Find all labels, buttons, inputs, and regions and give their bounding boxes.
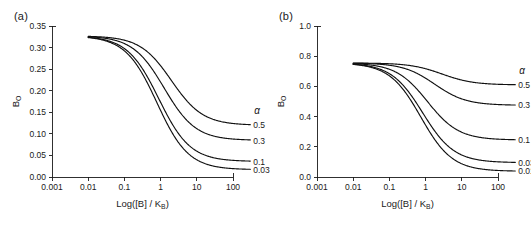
panel-b-x-axis-title: Log([B] / KB) — [381, 198, 434, 210]
panel-a-y-ticklabels: 0.000.050.100.150.200.250.300.35 — [29, 21, 46, 182]
x-tick-label: 100 — [226, 182, 240, 192]
panel-b-curves — [353, 63, 515, 171]
y-tick-label: 0.8 — [299, 51, 311, 61]
y-tick-label: 0.00 — [29, 172, 46, 182]
x-tick-label: 100 — [491, 182, 505, 192]
panel-a-y-axis-title: BO — [10, 96, 22, 108]
curve-alpha-0.3 — [88, 37, 250, 140]
y-tick-label: 0.0 — [299, 172, 311, 182]
curve-label-alpha-0.1: 0.1 — [518, 135, 530, 145]
x-tick-label: 0.001 — [41, 182, 63, 192]
curve-alpha-0.1 — [88, 37, 250, 161]
y-tick-label: 0.05 — [29, 150, 46, 160]
y-tick-label: 0.25 — [29, 64, 46, 74]
panel-b: (b) 0.00.20.40.60.81.0 0.0010.010.111010… — [265, 0, 531, 225]
y-tick-label: 0.6 — [299, 81, 311, 91]
curve-label-alpha-0.3: 0.3 — [253, 136, 265, 146]
x-tick-label: 1 — [423, 182, 428, 192]
y-tick-label: 0.20 — [29, 86, 46, 96]
x-axis-title-suffix: ) — [431, 198, 434, 209]
panel-a-curves — [88, 36, 250, 169]
panel-b-curve-labels: 0.50.30.10.030.01 — [518, 80, 531, 176]
x-tick-label: 0.1 — [118, 182, 130, 192]
x-tick-label: 1 — [158, 182, 163, 192]
panel-a-legend-title: α — [254, 105, 260, 116]
panel-b-legend-title: α — [519, 65, 525, 76]
x-tick-label: 0.001 — [306, 182, 328, 192]
curve-label-alpha-0.3: 0.3 — [518, 100, 530, 110]
curve-alpha-0.03 — [353, 64, 515, 162]
y-tick-label: 0.15 — [29, 107, 46, 117]
figure-container: (a) 0.000.050.100.150.200.250.300.35 0.0… — [0, 0, 531, 225]
x-tick-label: 0.01 — [345, 182, 362, 192]
curve-alpha-0.03 — [88, 38, 250, 170]
panel-b-x-ticklabels: 0.0010.010.1110100 — [306, 182, 505, 192]
y-tick-label: 0.2 — [299, 142, 311, 152]
curve-alpha-0.5 — [88, 36, 250, 124]
panel-a-x-ticklabels: 0.0010.010.1110100 — [41, 182, 240, 192]
curve-label-alpha-0.5: 0.5 — [253, 120, 265, 130]
y-axis-title-subscript: O — [15, 96, 22, 101]
x-tick-label: 0.1 — [383, 182, 395, 192]
y-axis-title-text: BO — [275, 96, 287, 108]
curve-alpha-0.1 — [353, 64, 515, 140]
x-tick-label: 10 — [192, 182, 202, 192]
panel-a-plot: 0.000.050.100.150.200.250.300.35 0.0010.… — [0, 0, 265, 225]
panel-b-plot: 0.00.20.40.60.81.0 0.0010.010.1110100 0.… — [265, 0, 531, 225]
y-tick-label: 0.30 — [29, 43, 46, 53]
panel-a-x-axis-title: Log([B] / KB) — [116, 198, 169, 210]
x-axis-title-suffix: ) — [166, 198, 169, 209]
x-tick-label: 10 — [457, 182, 467, 192]
curve-alpha-0.01 — [353, 64, 515, 171]
curve-label-alpha-0.5: 0.5 — [518, 80, 530, 90]
y-axis-title-text: BO — [10, 96, 22, 108]
y-tick-label: 0.35 — [29, 21, 46, 31]
x-tick-label: 0.01 — [80, 182, 97, 192]
y-axis-title-subscript: O — [280, 96, 287, 101]
y-tick-label: 0.10 — [29, 129, 46, 139]
panel-a: (a) 0.000.050.100.150.200.250.300.35 0.0… — [0, 0, 265, 225]
panel-b-y-axis-title: BO — [275, 96, 287, 108]
y-tick-label: 1.0 — [299, 21, 311, 31]
y-tick-label: 0.4 — [299, 112, 311, 122]
curve-label-alpha-0.01: 0.01 — [518, 166, 531, 176]
panel-b-y-ticklabels: 0.00.20.40.60.81.0 — [299, 21, 311, 182]
